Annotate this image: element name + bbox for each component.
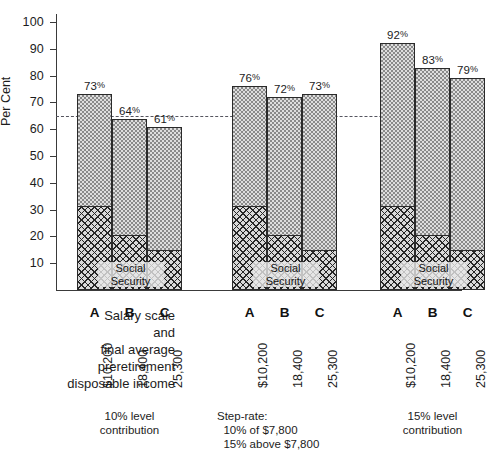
y-tick <box>50 49 57 50</box>
bar-value-label: 72% <box>274 83 295 95</box>
group-income-label: $10,200 <box>256 343 270 388</box>
y-tick <box>50 102 57 103</box>
y-tick-label: 30 <box>0 203 44 217</box>
y-tick <box>50 22 57 23</box>
group-category-label: B <box>280 305 290 320</box>
y-tick-label: 60 <box>0 122 44 136</box>
group-caption: 15% level contribution <box>403 409 462 437</box>
group-income-label: 25,300 <box>171 350 185 388</box>
group-income-label: 18,400 <box>439 350 453 388</box>
x-axis-line <box>56 290 462 291</box>
row-header-salary-scale: Salary scale <box>0 308 175 325</box>
group-income-label: $10,200 <box>101 343 115 388</box>
social-security-segment-label: SocialSecurity <box>253 262 319 287</box>
group-category-label: C <box>463 305 473 320</box>
group-category-label: B <box>125 305 135 320</box>
bar-value-label: 73% <box>84 80 105 92</box>
bar-value-label: 92% <box>387 29 408 41</box>
group-income-label: 25,300 <box>326 350 340 388</box>
social-security-segment-label: SocialSecurity <box>98 262 164 287</box>
y-tick-label: 100 <box>0 15 44 29</box>
bar <box>232 86 267 290</box>
y-tick-label: 10 <box>0 256 44 270</box>
y-tick-label: 80 <box>0 69 44 83</box>
group-category-label: A <box>245 305 255 320</box>
bar-value-label: 73% <box>309 80 330 92</box>
group-category-label: A <box>393 305 403 320</box>
group-income-label: 25,300 <box>474 350 488 388</box>
group-income-label: 18,400 <box>136 350 150 388</box>
y-axis-line <box>56 14 57 290</box>
row-header-and: and <box>0 325 175 342</box>
group-caption: 10% level contribution <box>100 409 159 437</box>
y-tick-label: 50 <box>0 149 44 163</box>
y-tick <box>50 236 57 237</box>
group-category-label: B <box>428 305 438 320</box>
bar-value-label: 83% <box>422 54 443 66</box>
bar <box>380 43 415 290</box>
social-security-segment-label: SocialSecurity <box>401 262 467 287</box>
y-tick <box>50 263 57 264</box>
y-tick-label: 40 <box>0 176 44 190</box>
group-income-label: $10,200 <box>404 343 418 388</box>
group-category-label: C <box>315 305 325 320</box>
bar <box>302 94 337 290</box>
group-caption: Step-rate: 10% of $7,800 15% above $7,80… <box>217 409 319 451</box>
y-tick <box>50 76 57 77</box>
bar-value-label: 76% <box>239 72 260 84</box>
y-tick <box>50 156 57 157</box>
bar <box>450 78 485 290</box>
y-tick <box>50 210 57 211</box>
y-tick-label: 20 <box>0 229 44 243</box>
bar <box>415 68 450 290</box>
bar-value-label: 79% <box>457 64 478 76</box>
group-income-label: 18,400 <box>291 350 305 388</box>
bar <box>77 94 112 290</box>
y-tick-label: 70 <box>0 95 44 109</box>
bar-value-label: 64% <box>119 105 140 117</box>
y-tick-label: 90 <box>0 42 44 56</box>
group-category-label: C <box>160 305 170 320</box>
y-tick <box>50 183 57 184</box>
group-category-label: A <box>90 305 100 320</box>
y-tick <box>50 129 57 130</box>
bar-value-label: 61% <box>154 113 175 125</box>
